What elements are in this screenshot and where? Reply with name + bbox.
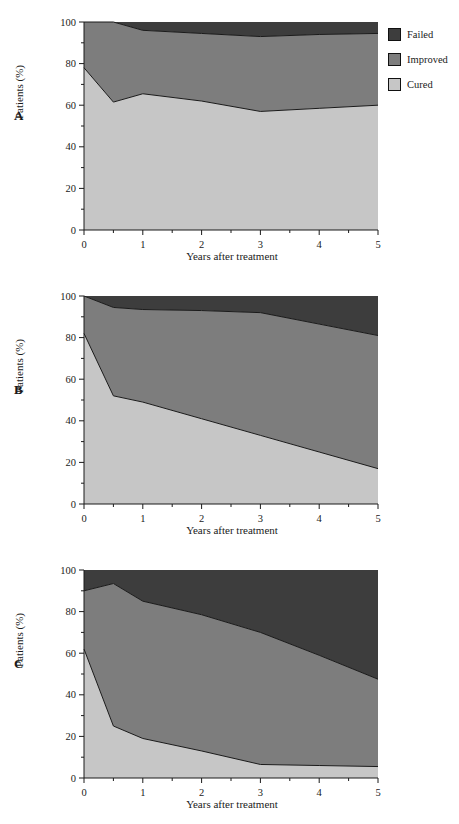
x-tick-label: 5: [375, 513, 380, 524]
y-tick-label: 20: [66, 183, 77, 194]
x-tick-label: 3: [258, 239, 263, 250]
x-tick-label: 4: [317, 787, 323, 798]
x-tick-label: 3: [258, 513, 263, 524]
panel-c: C Patients (%) Years after treatment 020…: [0, 548, 459, 823]
y-tick-label: 60: [66, 100, 77, 111]
y-tick-label: 40: [66, 689, 77, 700]
x-tick-label: 2: [199, 787, 204, 798]
y-tick-label: 0: [71, 499, 76, 510]
y-tick-label: 60: [66, 374, 77, 385]
y-tick-label: 40: [66, 415, 77, 426]
y-tick-label: 20: [66, 731, 77, 742]
plot-area-c: 020406080100012345: [0, 548, 459, 823]
x-tick-label: 2: [199, 513, 204, 524]
x-tick-label: 0: [81, 239, 86, 250]
y-tick-label: 100: [60, 291, 76, 302]
legend-swatch-improved-icon: [388, 53, 401, 66]
y-tick-label: 40: [66, 141, 77, 152]
figure-container: A Patients (%) Years after treatment 020…: [0, 0, 459, 824]
y-tick-label: 80: [66, 58, 77, 69]
y-tick-label: 20: [66, 457, 77, 468]
legend-swatch-failed-icon: [388, 28, 401, 41]
plot-area-b: 020406080100012345: [0, 274, 459, 549]
x-tick-label: 1: [140, 513, 145, 524]
y-tick-label: 0: [71, 773, 76, 784]
x-tick-label: 4: [317, 239, 323, 250]
legend-item-cured: Cured: [388, 74, 448, 94]
legend-label-failed: Failed: [407, 29, 433, 40]
x-tick-label: 4: [317, 513, 323, 524]
legend-item-failed: Failed: [388, 24, 448, 44]
x-tick-label: 1: [140, 787, 145, 798]
y-tick-label: 80: [66, 332, 77, 343]
x-tick-label: 2: [199, 239, 204, 250]
y-tick-label: 100: [60, 17, 76, 28]
x-tick-label: 0: [81, 787, 86, 798]
y-tick-label: 100: [60, 565, 76, 576]
x-tick-label: 5: [375, 239, 380, 250]
x-tick-label: 0: [81, 513, 86, 524]
legend: Failed Improved Cured: [388, 24, 448, 99]
x-tick-label: 3: [258, 787, 263, 798]
y-tick-label: 60: [66, 648, 77, 659]
y-tick-label: 80: [66, 606, 77, 617]
panel-b: B Patients (%) Years after treatment 020…: [0, 274, 459, 549]
legend-swatch-cured-icon: [388, 78, 401, 91]
x-tick-label: 5: [375, 787, 380, 798]
legend-item-improved: Improved: [388, 49, 448, 69]
legend-label-improved: Improved: [407, 54, 448, 65]
x-tick-label: 1: [140, 239, 145, 250]
legend-label-cured: Cured: [407, 79, 433, 90]
y-tick-label: 0: [71, 225, 76, 236]
